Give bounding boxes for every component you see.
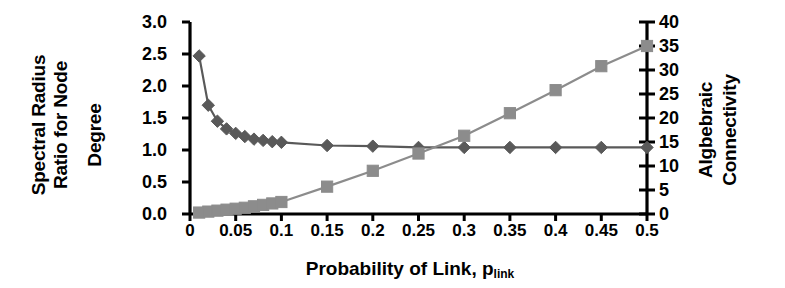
series-line [199, 56, 647, 148]
data-point-square [276, 196, 287, 207]
data-point-square [641, 40, 652, 51]
data-point-diamond [458, 141, 470, 153]
data-point-diamond [193, 50, 205, 62]
series-2 [194, 40, 653, 218]
plot-area [0, 0, 785, 288]
data-point-diamond [595, 141, 607, 153]
data-point-diamond [321, 139, 333, 151]
series-1 [193, 50, 653, 154]
data-point-square [459, 130, 470, 141]
data-point-diamond [202, 99, 214, 111]
data-point-diamond [504, 141, 516, 153]
data-point-square [550, 85, 561, 96]
chart-figure: Spectral Radius Ratio for Node Degree Al… [0, 0, 785, 288]
data-point-diamond [367, 140, 379, 152]
data-point-square [504, 108, 515, 119]
series-line [199, 46, 647, 213]
data-point-square [322, 181, 333, 192]
data-point-square [367, 165, 378, 176]
data-point-diamond [275, 136, 287, 148]
data-point-diamond [549, 141, 561, 153]
data-point-square [413, 148, 424, 159]
data-point-square [596, 61, 607, 72]
